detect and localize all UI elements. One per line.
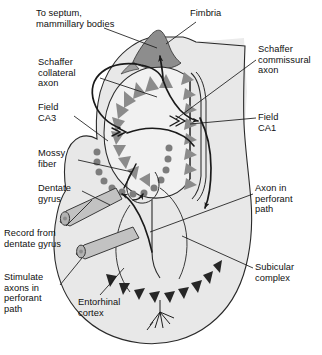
label-stimulate-axons: Stimulate axons in perforant path <box>4 272 43 314</box>
label-subicular-complex: Subicular complex <box>255 262 294 283</box>
label-axon-perforant-path: Axon in perforant path <box>255 183 293 215</box>
label-field-ca3: Field CA3 <box>38 102 58 123</box>
label-field-ca1: Field CA1 <box>258 112 278 133</box>
label-dentate-gyrus: Dentate gyrus <box>38 183 71 204</box>
label-entorhinal-cortex: Entorhinal cortex <box>78 297 120 318</box>
label-fimbria: Fimbria <box>190 8 221 19</box>
label-to-septum: To septum, mammillary bodies <box>36 8 114 29</box>
label-mossy-fiber: Mossy fiber <box>38 148 65 169</box>
label-schaffer-commissural: Schaffer commissural axon <box>258 44 311 76</box>
label-record-dentate-gyrus: Record from dentate gyrus <box>4 228 61 249</box>
label-schaffer-collateral: Schaffer collateral axon <box>38 57 76 89</box>
